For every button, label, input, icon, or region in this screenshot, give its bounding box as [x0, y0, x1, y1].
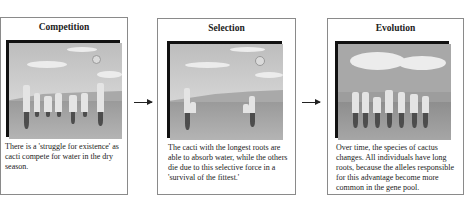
- cactus: [398, 92, 405, 113]
- panel-caption: The cacti with the longest roots are abl…: [168, 143, 293, 183]
- cactus: [81, 93, 88, 112]
- root: [423, 113, 428, 128]
- cactus: [410, 94, 418, 113]
- cactus: [55, 93, 62, 112]
- panel-selection: Selection The cacti with the longest roo…: [157, 18, 296, 195]
- root: [250, 113, 255, 127]
- cloud-icon: [398, 56, 446, 70]
- root: [387, 113, 392, 128]
- arrow-right-icon: [134, 102, 152, 103]
- cactus: [44, 96, 52, 112]
- root: [399, 113, 404, 128]
- cactus: [422, 96, 429, 113]
- cactus: [69, 95, 77, 112]
- cactus: [243, 104, 249, 113]
- root: [185, 113, 190, 130]
- cactus: [23, 85, 30, 112]
- cloud-icon: [185, 62, 230, 68]
- arrow-right-icon: [302, 102, 320, 103]
- cactus: [249, 96, 255, 113]
- cactus: [373, 97, 381, 113]
- panel-caption: There is a 'struggle for existence' as c…: [5, 142, 123, 172]
- panel-title: Evolution: [328, 23, 463, 33]
- root: [412, 113, 417, 128]
- root: [57, 112, 61, 117]
- cloud-icon: [97, 71, 122, 78]
- selection-illustration: [170, 44, 283, 140]
- panel-title: Competition: [1, 22, 127, 32]
- cactus: [97, 83, 104, 112]
- root: [363, 113, 368, 128]
- root: [83, 112, 87, 117]
- panel-competition: Competition There is a 'struggle for exi…: [0, 17, 128, 195]
- cactus: [362, 92, 369, 113]
- cloud-icon: [67, 47, 97, 52]
- sun-icon: [255, 56, 265, 66]
- cactus: [385, 90, 393, 113]
- root: [24, 112, 29, 129]
- root: [353, 113, 358, 128]
- cloud-icon: [27, 61, 67, 68]
- cactus: [190, 102, 196, 113]
- root: [98, 112, 103, 126]
- cloud-icon: [255, 72, 283, 78]
- cloud-icon: [230, 47, 265, 52]
- cloud-icon: [350, 52, 405, 70]
- panel-title: Selection: [158, 23, 295, 33]
- root: [46, 112, 50, 117]
- evolution-illustration: [338, 44, 451, 140]
- competition-illustration: [9, 43, 122, 139]
- root: [375, 113, 380, 128]
- panel-evolution: Evolution Over time, the species of cact…: [327, 18, 464, 195]
- root: [71, 112, 75, 124]
- sun-icon: [92, 55, 101, 64]
- cactus: [34, 93, 40, 112]
- cactus: [352, 92, 359, 113]
- root: [35, 112, 39, 117]
- panel-caption: Over time, the species of cactus changes…: [336, 143, 461, 193]
